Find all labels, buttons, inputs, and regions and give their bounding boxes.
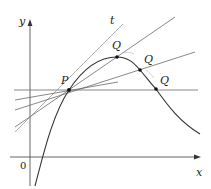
y-axis-label: y bbox=[18, 15, 26, 28]
secant-tangent-diagram: y x 0 P Q Q Q t bbox=[0, 0, 211, 189]
point-Q-1-label: Q bbox=[112, 39, 121, 52]
point-Q-2-label: Q bbox=[144, 53, 153, 66]
point-Q-2 bbox=[138, 68, 142, 72]
tangent-label: t bbox=[110, 14, 115, 27]
x-axis-arrow-icon bbox=[194, 155, 201, 160]
point-P bbox=[67, 88, 71, 92]
point-P-label: P bbox=[60, 74, 69, 87]
x-axis-label: x bbox=[196, 166, 203, 179]
approach-arrow-2 bbox=[146, 70, 154, 78]
y-axis-arrow-icon bbox=[28, 19, 33, 26]
approach-arrow-1 bbox=[124, 52, 134, 54]
point-Q-3-label: Q bbox=[160, 74, 169, 87]
point-Q-3 bbox=[154, 87, 158, 91]
secant-line-1 bbox=[15, 17, 175, 127]
lines-through-P bbox=[14, 17, 198, 132]
origin-label: 0 bbox=[20, 160, 26, 171]
point-Q-1 bbox=[115, 55, 119, 59]
function-curve bbox=[35, 57, 200, 186]
